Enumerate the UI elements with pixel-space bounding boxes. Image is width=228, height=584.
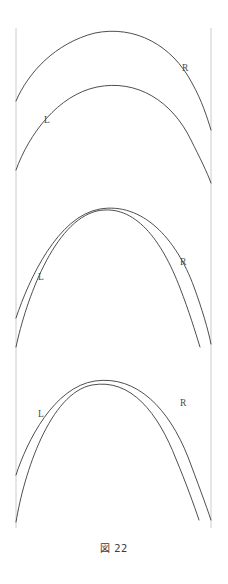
panel-middle: R L [16, 208, 211, 347]
curve-bottom-l [16, 384, 199, 522]
label-middle-r: R [180, 257, 187, 267]
label-top-l: L [44, 115, 50, 125]
label-bottom-l: L [38, 409, 44, 419]
panel-top: R L [16, 31, 211, 183]
curve-top-l [16, 85, 211, 183]
curve-middle-r [16, 208, 211, 344]
label-bottom-r: R [180, 398, 187, 408]
figure-container: R L R L R L 図 22 [0, 0, 228, 584]
panel-bottom: R L [16, 380, 211, 522]
label-middle-l: L [38, 272, 44, 282]
label-top-r: R [182, 63, 189, 73]
guide-lines [16, 28, 211, 528]
figure-caption: 図 22 [0, 540, 228, 555]
figure-drawing: R L R L R L [0, 0, 228, 584]
